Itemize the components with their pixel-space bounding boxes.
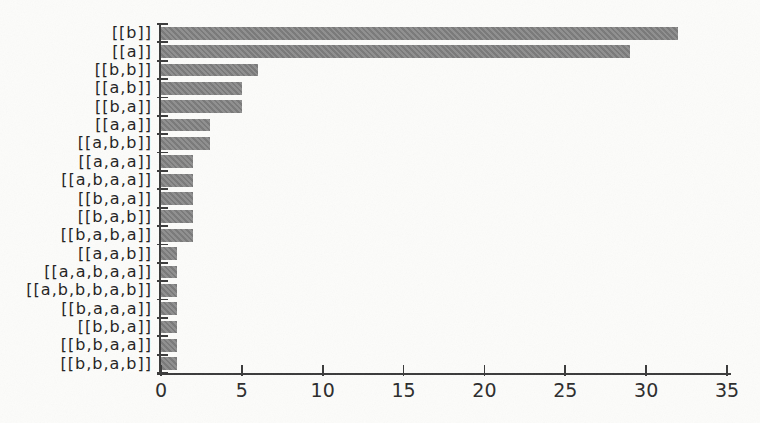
y-axis-tick <box>157 317 168 319</box>
y-axis-tick <box>157 60 168 62</box>
bar <box>161 137 210 150</box>
y-tick-label: [[b]] <box>0 23 152 43</box>
y-tick-label: [[b,b,a,a]] <box>0 335 152 355</box>
y-tick-label: [[b,a,b]] <box>0 207 152 227</box>
bar <box>161 266 177 279</box>
x-axis-tick <box>564 365 566 376</box>
y-tick-label: [[a,a,b]] <box>0 244 152 264</box>
y-tick-label: [[b,b,a,b]] <box>0 354 152 374</box>
x-tick-label: 30 <box>634 379 658 401</box>
y-tick-label: [[b,a,b,a]] <box>0 225 152 245</box>
bar <box>161 229 193 242</box>
bar <box>161 100 242 113</box>
y-axis-tick <box>157 262 168 264</box>
x-axis-tick <box>322 365 324 376</box>
y-tick-label: [[a,b,b]] <box>0 133 152 153</box>
y-axis-tick <box>157 97 168 99</box>
y-axis-tick <box>157 299 168 301</box>
x-axis-tick <box>241 365 243 376</box>
y-axis-tick <box>157 354 168 356</box>
x-tick-label: 25 <box>553 379 577 401</box>
x-axis-tick <box>484 365 486 376</box>
y-axis-tick <box>157 78 168 80</box>
x-axis-tick <box>403 365 405 376</box>
bar <box>161 155 193 168</box>
y-tick-label: [[b,b]] <box>0 60 152 80</box>
x-tick-label: 15 <box>391 379 415 401</box>
x-tick-label: 10 <box>311 379 335 401</box>
y-axis-tick <box>157 115 168 117</box>
y-axis-tick <box>157 170 168 172</box>
y-axis-tick <box>157 133 168 135</box>
y-axis-tick <box>157 41 168 43</box>
y-axis-tick <box>157 152 168 154</box>
bar <box>161 210 193 223</box>
x-tick-label: 0 <box>155 379 167 401</box>
y-tick-label: [[a,a]] <box>0 115 152 135</box>
bar <box>161 357 177 370</box>
y-tick-label: [[a,b]] <box>0 78 152 98</box>
bar <box>161 302 177 315</box>
y-axis-tick <box>157 188 168 190</box>
y-tick-label: [[b,a]] <box>0 97 152 117</box>
bar <box>161 64 258 77</box>
x-axis-tick <box>645 365 647 376</box>
x-tick-label: 5 <box>236 379 248 401</box>
y-tick-label: [[a,a,b,a,a]] <box>0 262 152 282</box>
bar <box>161 339 177 352</box>
bar <box>161 27 678 40</box>
y-tick-label: [[b,a,a]] <box>0 189 152 209</box>
bar <box>161 321 177 334</box>
x-axis-tick <box>160 365 162 376</box>
y-tick-label: [[a]] <box>0 42 152 62</box>
y-axis-tick <box>157 23 168 25</box>
y-tick-label: [[a,b,a,a]] <box>0 170 152 190</box>
bar <box>161 192 193 205</box>
y-tick-label: [[a,b,b,b,a,b]] <box>0 280 152 300</box>
y-tick-label: [[a,a,a]] <box>0 152 152 172</box>
x-tick-label: 35 <box>715 379 739 401</box>
y-axis-tick <box>157 280 168 282</box>
bar <box>161 119 210 132</box>
y-axis-tick <box>157 372 168 374</box>
bar <box>161 82 242 95</box>
y-axis-tick <box>157 207 168 209</box>
y-tick-label: [[b,b,a]] <box>0 317 152 337</box>
bar <box>161 284 177 297</box>
x-tick-label: 20 <box>472 379 496 401</box>
bar-chart-figure: [[b]][[a]][[b,b]][[a,b]][[b,a]][[a,a]][[… <box>0 0 760 423</box>
y-axis-tick <box>157 244 168 246</box>
y-axis-tick <box>157 335 168 337</box>
bar <box>161 45 630 58</box>
bar <box>161 174 193 187</box>
y-axis-tick <box>157 225 168 227</box>
plot-area: [[b]][[a]][[b,b]][[a,b]][[b,a]][[a,a]][[… <box>0 0 760 423</box>
bar <box>161 247 177 260</box>
y-tick-label: [[b,a,a,a]] <box>0 299 152 319</box>
x-axis-tick <box>726 365 728 376</box>
